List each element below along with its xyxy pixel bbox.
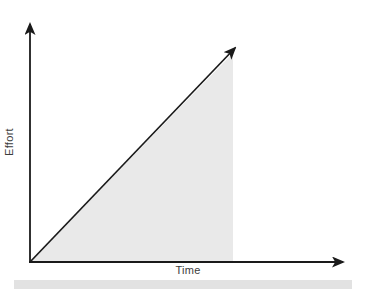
effort-time-figure: Effort Time [0, 0, 365, 289]
x-axis-label: Time [175, 264, 200, 276]
effort-time-chart: Effort Time [0, 0, 365, 289]
y-axis-label: Effort [3, 128, 15, 156]
bottom-bar [14, 280, 352, 289]
